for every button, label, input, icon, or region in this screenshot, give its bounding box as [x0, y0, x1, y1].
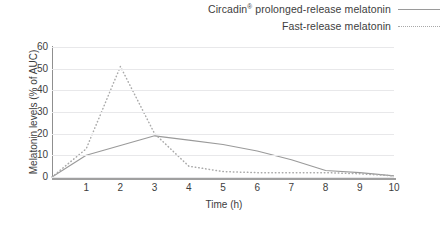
x-axis-tick-label: 8	[314, 182, 338, 193]
gridline	[52, 69, 394, 70]
series-line-fast-release	[52, 67, 394, 178]
gridline	[52, 47, 394, 48]
x-axis-tick-label: 3	[143, 182, 167, 193]
legend-swatch-solid-line	[398, 5, 440, 13]
x-axis-tick-label: 9	[348, 182, 372, 193]
gridline	[52, 134, 394, 135]
legend-entry-circadin: Circadin® prolonged-release melatonin	[0, 0, 446, 17]
plot-area	[52, 47, 394, 177]
gridline	[52, 155, 394, 156]
x-axis-tick-label: 7	[279, 182, 303, 193]
gridline	[52, 112, 394, 113]
chart-legend: Circadin® prolonged-release melatonin Fa…	[0, 0, 446, 34]
legend-entry-fast-release: Fast-release melatonin	[0, 17, 446, 34]
legend-swatch-dotted-line	[398, 22, 440, 30]
legend-label-fast-release: Fast-release melatonin	[282, 20, 391, 32]
x-axis-tick-label: 5	[211, 182, 235, 193]
x-axis-tick-label: 4	[177, 182, 201, 193]
melatonin-pharmacokinetics-chart: Circadin® prolonged-release melatonin Fa…	[0, 0, 446, 225]
x-axis-tick-label: 10	[382, 182, 406, 193]
gridline	[52, 90, 394, 91]
x-axis-line	[52, 178, 396, 180]
x-axis-title: Time (h)	[52, 199, 396, 210]
x-axis-tick-label: 2	[108, 182, 132, 193]
gridline	[52, 177, 394, 178]
x-axis-tick-label: 6	[245, 182, 269, 193]
y-axis-title: Melatonin levels (% of AUC)	[28, 37, 39, 187]
y-axis-title-holder: Melatonin levels (% of AUC)	[14, 47, 26, 177]
x-axis-tick-label: 1	[74, 182, 98, 193]
legend-label-circadin: Circadin® prolonged-release melatonin	[208, 2, 391, 15]
